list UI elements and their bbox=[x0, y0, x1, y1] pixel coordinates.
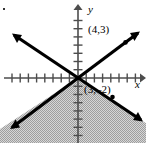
coordinate-plane-svg bbox=[0, 0, 146, 143]
point-label-4-3: (4,3) bbox=[88, 24, 109, 35]
y-axis-label: y bbox=[88, 4, 93, 15]
point-label-3-neg2: (3,–2) bbox=[84, 84, 111, 95]
point-marker-3-neg2 bbox=[110, 95, 115, 100]
point-marker-4-3 bbox=[123, 40, 128, 45]
graph-figure: y x (4,3) (3,–2) bbox=[0, 0, 146, 143]
corner-speck bbox=[3, 8, 5, 10]
x-axis-label: x bbox=[135, 79, 140, 90]
